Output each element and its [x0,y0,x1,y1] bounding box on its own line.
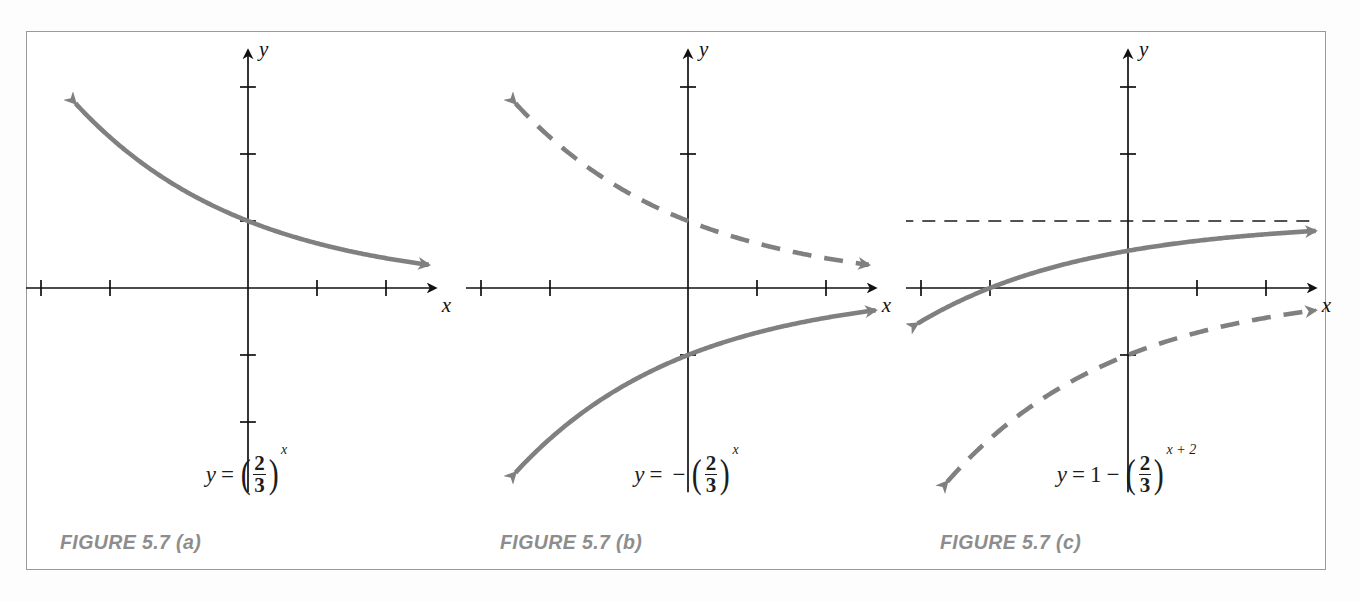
equation-b: y = − ( 2 3 ) x [466,453,906,496]
equation-c-lhs: y [1057,462,1067,488]
equation-c-fraction: 2 3 [1139,453,1152,496]
panel-c: xy y = 1 − ( 2 3 ) x + 2 FIGURE 5.7 (c) [906,31,1346,570]
equation-c: y = 1 − ( 2 3 ) x + 2 [906,453,1346,496]
equation-c-close-paren: ) [1154,458,1164,491]
equation-b-lhs: y [634,462,644,488]
x-axis-label: x [881,293,892,317]
equation-c-equals: = [1072,462,1085,488]
equation-c-open-paren: ( [1126,458,1136,491]
caption-c: FIGURE 5.7 (c) [940,531,1081,554]
reference-curve-dashed [516,103,869,264]
caption-a: FIGURE 5.7 (a) [60,531,201,554]
main-curve-solid [918,231,1316,324]
caption-b: FIGURE 5.7 (b) [500,531,642,554]
equation-b-sign: − [672,462,685,488]
equation-a-numerator: 2 [253,453,266,474]
equation-a-lhs: y [206,462,216,488]
equation-b-open-paren: ( [692,458,702,491]
equation-c-exponent: x + 2 [1167,442,1197,458]
equation-b-fraction: 2 3 [705,453,718,496]
equation-a-exponent: x [281,442,287,458]
equation-b-denominator: 3 [705,474,718,496]
equation-b-exponent: x [733,442,739,458]
equation-c-leading: 1 [1090,462,1102,488]
equation-a-denominator: 3 [253,474,266,496]
y-axis-label: y [1137,37,1149,61]
y-axis-label: y [697,37,709,61]
equation-a-close-paren: ) [268,458,278,491]
main-curve-solid [516,310,876,472]
y-axis-label: y [257,37,269,61]
equation-a-open-paren: ( [241,458,251,491]
main-curve-solid [76,103,429,264]
equation-b-numerator: 2 [705,453,718,474]
panel-a: xy y = ( 2 3 ) x FIGURE 5.7 (a) [26,31,466,570]
equation-a: y = ( 2 3 ) x [26,453,466,496]
equation-a-equals: = [221,462,234,488]
equation-b-equals: = [649,462,662,488]
equation-c-sign: − [1106,462,1119,488]
equation-b-close-paren: ) [720,458,730,491]
equation-a-fraction: 2 3 [253,453,266,496]
panel-b: xy y = − ( 2 3 ) x FIGURE 5.7 (b) [466,31,906,570]
x-axis-label: x [441,293,452,317]
equation-c-denominator: 3 [1139,474,1152,496]
figure-root: xy y = ( 2 3 ) x FIGURE 5.7 (a) xy y = − [0,0,1360,602]
x-axis-label: x [1321,293,1332,317]
equation-c-numerator: 2 [1139,453,1152,474]
